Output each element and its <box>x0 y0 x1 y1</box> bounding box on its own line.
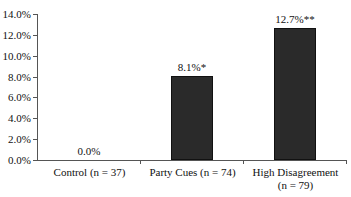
y-tick-label: 4.0% <box>0 112 31 124</box>
bar <box>274 28 316 160</box>
y-tick-label: 14.0% <box>0 8 31 20</box>
category-label-line: (n = 79) <box>244 179 347 192</box>
bar-chart: 0.0%2.0%4.0%6.0%8.0%10.0%12.0%14.0% 0.0%… <box>0 0 351 197</box>
y-axis-line <box>37 14 38 161</box>
category-label: Party Cues (n = 74) <box>141 166 244 179</box>
x-tick-mark <box>140 160 141 164</box>
y-tick-label: 6.0% <box>0 91 31 103</box>
y-tick-label: 8.0% <box>0 71 31 83</box>
x-axis-line <box>37 160 346 161</box>
x-tick-mark <box>243 160 244 164</box>
category-label: Control (n = 37) <box>38 166 141 179</box>
category-label-line: Control (n = 37) <box>38 166 141 179</box>
category-label: High Disagreement(n = 79) <box>244 166 347 192</box>
category-label-line: High Disagreement <box>244 166 347 179</box>
bar-value-label: 12.7%** <box>255 13 335 25</box>
y-tick-label: 10.0% <box>0 50 31 62</box>
bar-value-label: 8.1%* <box>152 61 232 73</box>
y-tick-label: 0.0% <box>0 154 31 166</box>
y-tick-label: 2.0% <box>0 133 31 145</box>
y-tick-label: 12.0% <box>0 29 31 41</box>
bar-value-label: 0.0% <box>49 145 129 157</box>
category-label-line: Party Cues (n = 74) <box>141 166 244 179</box>
x-tick-mark <box>346 160 347 164</box>
bar <box>171 76 213 160</box>
